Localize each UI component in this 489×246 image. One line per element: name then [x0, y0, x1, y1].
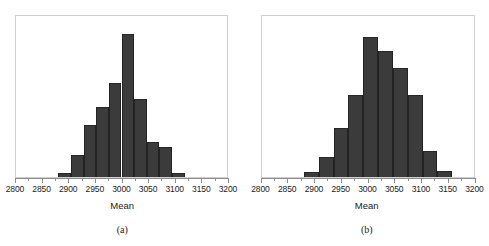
x-axis-tick-label: 2800: [6, 184, 25, 194]
histogram-bar: [408, 95, 423, 177]
x-axis-tick: [228, 178, 229, 183]
panel-a: 280028502900295030003050310031503200 Mea…: [0, 0, 245, 246]
histogram-bar: [393, 68, 408, 177]
histogram-bar: [319, 157, 334, 177]
x-axis-minor-tick: [215, 178, 216, 181]
histogram-bar: [159, 147, 172, 177]
x-axis-minor-tick: [188, 178, 189, 181]
x-axis-minor-tick: [274, 178, 275, 181]
histogram-bar: [84, 125, 97, 177]
x-axis-tick: [394, 178, 395, 183]
histogram-bar: [134, 99, 147, 177]
x-axis-minor-tick: [381, 178, 382, 181]
x-axis-tick: [95, 178, 96, 183]
x-axis-tick: [201, 178, 202, 183]
x-axis-tick-label: 3000: [358, 184, 377, 194]
x-axis-tick-label: 2950: [331, 184, 350, 194]
x-axis-title-b: Mean: [245, 200, 489, 211]
x-axis-tick-label: 3150: [438, 184, 457, 194]
x-axis-tick-label: 2850: [32, 184, 51, 194]
x-axis-tick-label: 2800: [251, 184, 270, 194]
x-axis-a: 280028502900295030003050310031503200: [15, 178, 228, 179]
x-axis-tick: [122, 178, 123, 183]
x-axis-minor-tick: [434, 178, 435, 181]
x-axis-tick-label: 2850: [278, 184, 297, 194]
x-axis-tick: [287, 178, 288, 183]
plot-frame-b: [261, 15, 475, 178]
x-axis-tick: [341, 178, 342, 183]
x-axis-tick: [15, 178, 16, 183]
histogram-bars-a: [16, 16, 227, 177]
x-axis-tick-label: 3050: [139, 184, 158, 194]
x-axis-minor-tick: [327, 178, 328, 181]
histogram-bar: [122, 34, 135, 177]
x-axis-tick-label: 2900: [59, 184, 78, 194]
x-axis-tick-label: 3100: [165, 184, 184, 194]
histogram-bar: [363, 37, 378, 177]
histogram-bar: [348, 95, 363, 177]
histogram-figure: 280028502900295030003050310031503200 Mea…: [0, 0, 489, 246]
x-axis-minor-tick: [354, 178, 355, 181]
panel-b: 280028502900295030003050310031503200 Mea…: [245, 0, 489, 246]
x-axis-tick-label: 3100: [412, 184, 431, 194]
x-axis-tick: [475, 178, 476, 183]
histogram-bar: [304, 172, 319, 177]
histogram-bar: [109, 83, 122, 177]
panel-caption-b: (b): [245, 224, 489, 235]
x-axis-title-a: Mean: [0, 200, 245, 211]
histogram-bar: [96, 107, 109, 177]
histogram-bar: [437, 171, 452, 177]
x-axis-tick: [368, 178, 369, 183]
x-axis-tick-label: 3050: [385, 184, 404, 194]
x-axis-minor-tick: [82, 178, 83, 181]
x-axis-minor-tick: [461, 178, 462, 181]
panel-caption-a: (a): [0, 224, 245, 235]
plot-frame-a: [15, 15, 228, 178]
histogram-bar: [71, 155, 84, 177]
x-axis-tick-label: 3200: [465, 184, 484, 194]
x-axis-tick: [261, 178, 262, 183]
x-axis-minor-tick: [55, 178, 56, 181]
x-axis-minor-tick: [28, 178, 29, 181]
x-axis-minor-tick: [408, 178, 409, 181]
x-axis-tick: [148, 178, 149, 183]
histogram-bar: [58, 173, 71, 177]
x-axis-tick: [42, 178, 43, 183]
histogram-bar: [334, 128, 349, 177]
x-axis-tick: [448, 178, 449, 183]
histogram-bar: [378, 51, 393, 177]
histogram-bar: [423, 151, 438, 177]
x-axis-tick-label: 3200: [219, 184, 238, 194]
x-axis-tick-label: 2900: [305, 184, 324, 194]
x-axis-b: 280028502900295030003050310031503200: [261, 178, 475, 179]
x-axis-tick-label: 2950: [86, 184, 105, 194]
x-axis-tick: [314, 178, 315, 183]
histogram-bars-b: [262, 16, 474, 177]
x-axis-minor-tick: [161, 178, 162, 181]
histogram-bar: [147, 142, 160, 177]
x-axis-minor-tick: [108, 178, 109, 181]
x-axis-minor-tick: [135, 178, 136, 181]
x-axis-tick: [175, 178, 176, 183]
x-axis-tick-label: 3150: [192, 184, 211, 194]
x-axis-tick: [68, 178, 69, 183]
histogram-bar: [172, 173, 185, 177]
x-axis-minor-tick: [301, 178, 302, 181]
x-axis-tick: [421, 178, 422, 183]
x-axis-tick-label: 3000: [112, 184, 131, 194]
